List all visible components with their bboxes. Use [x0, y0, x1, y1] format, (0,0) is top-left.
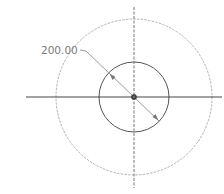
diameter-dimension-label[interactable]: 200.00: [41, 44, 78, 56]
dimension-leader[interactable]: [80, 50, 159, 121]
dimension-arrow-end-icon: [153, 114, 159, 121]
drawing-canvas: 200.00: [0, 0, 224, 194]
sketch-svg: [0, 0, 224, 194]
center-point-highlight: [133, 96, 135, 98]
